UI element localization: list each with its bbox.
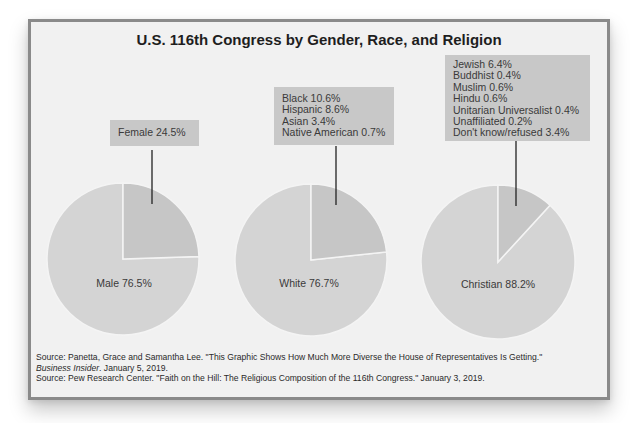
pie-gender (47, 150, 199, 335)
callout-line: Don't know/refused 3.4% (453, 127, 582, 138)
chart-frame: U.S. 116th Congress by Gender, Race, and… (28, 19, 610, 400)
pie-race (235, 146, 387, 336)
pie-label-christian: Christian 88.2% (461, 278, 535, 290)
source-line-2: Business Insider. January 5, 2019. (36, 363, 542, 374)
pie-slice-female (123, 183, 199, 259)
source-line-3: Source: Pew Research Center. "Faith on t… (36, 373, 542, 384)
callout-line: Female 24.5% (118, 127, 191, 138)
pie-religion (421, 141, 575, 339)
callout-line: Native American 0.7% (282, 127, 386, 138)
source-line-1: Source: Panetta, Grace and Samantha Lee.… (36, 352, 542, 363)
callout-religion: Jewish 6.4% Buddhist 0.4% Muslim 0.6% Hi… (445, 55, 590, 141)
callout-line: Hindu 0.6% (453, 93, 582, 104)
pie-slice-minority-races (311, 184, 387, 260)
source-date: . January 5, 2019. (99, 363, 168, 373)
pie-label-male: Male 76.5% (96, 277, 151, 289)
source-citations: Source: Panetta, Grace and Samantha Lee.… (36, 352, 542, 384)
publication-name: Business Insider (36, 363, 99, 373)
chart-stage: U.S. 116th Congress by Gender, Race, and… (0, 0, 636, 423)
callout-race: Black 10.6% Hispanic 8.6% Asian 3.4% Nat… (274, 87, 394, 145)
callout-gender: Female 24.5% (110, 120, 199, 146)
pie-label-white: White 76.7% (279, 277, 339, 289)
